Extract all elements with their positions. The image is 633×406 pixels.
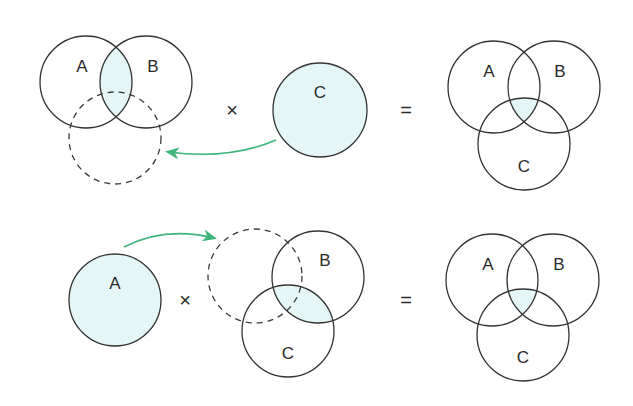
top-result-circle-a (448, 41, 540, 133)
top-operand-circle-c (273, 63, 367, 157)
bottom-result-label-c: C (517, 348, 529, 367)
bottom-result-circle-b (507, 234, 599, 326)
top-left-label-b: B (147, 57, 158, 76)
top-green-arrow-icon (168, 140, 276, 154)
top-times-sign: × (226, 99, 238, 121)
top-equals-sign: = (400, 99, 412, 121)
bottom-result-circle-a (446, 234, 538, 326)
bottom-middle-dashed-placeholder-circle (208, 229, 302, 323)
venn-diagram-canvas: A B × C = A B C A × (0, 0, 633, 406)
top-left-venn-group: A B (40, 36, 192, 184)
top-result-circle-b (508, 41, 600, 133)
top-result-label-a: A (483, 62, 495, 81)
bottom-operand-label-a: A (109, 274, 121, 293)
bottom-operand-circle-a-group: A (69, 254, 161, 346)
bottom-middle-label-b: B (319, 251, 330, 270)
top-result-label-b: B (554, 62, 565, 81)
bottom-middle-label-c: C (282, 344, 294, 363)
bottom-middle-venn-group: B C (208, 229, 364, 377)
bottom-result-venn-group: A B C (446, 234, 599, 381)
top-result-label-c: C (518, 157, 530, 176)
bottom-result-label-a: A (482, 255, 494, 274)
top-operand-label-c: C (314, 83, 326, 102)
top-result-venn-group: A B C (448, 41, 600, 190)
top-operand-circle-c-group: C (273, 63, 367, 157)
bottom-operand-circle-a (69, 254, 161, 346)
bottom-times-sign: × (179, 289, 191, 311)
top-left-label-a: A (76, 57, 88, 76)
venn-diagram-svg: A B × C = A B C A × (0, 0, 633, 406)
bottom-result-label-b: B (553, 255, 564, 274)
bottom-equals-sign: = (400, 289, 412, 311)
bottom-green-arrow-icon (124, 234, 214, 247)
